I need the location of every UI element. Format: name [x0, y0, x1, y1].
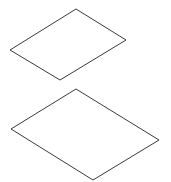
bottom-parallelogram	[11, 89, 159, 180]
top-parallelogram	[10, 9, 126, 80]
diagram-canvas	[0, 0, 171, 182]
